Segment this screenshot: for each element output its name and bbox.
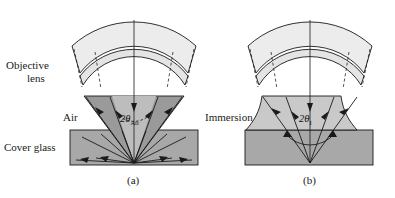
objective-lens-label-line2: lens bbox=[27, 72, 45, 84]
figure-root: 2θAir Air (a) bbox=[0, 0, 395, 198]
optics-diagram: 2θAir Air (a) bbox=[0, 0, 395, 198]
panel-caption-a: (a) bbox=[127, 174, 140, 187]
objective-lens-label-line1: Objective bbox=[6, 59, 49, 71]
angle-symbol-b: 2θ bbox=[299, 113, 309, 124]
panel-caption-b: (b) bbox=[303, 174, 316, 187]
medium-label-air: Air bbox=[63, 111, 78, 123]
angle-symbol-a: 2θ bbox=[120, 113, 130, 124]
medium-label-immersion: Immersion bbox=[205, 111, 253, 123]
cover-glass-label: Cover glass bbox=[4, 141, 56, 153]
angle-subscript-b: I bbox=[309, 119, 311, 126]
angle-subscript-a: Air bbox=[130, 119, 140, 126]
